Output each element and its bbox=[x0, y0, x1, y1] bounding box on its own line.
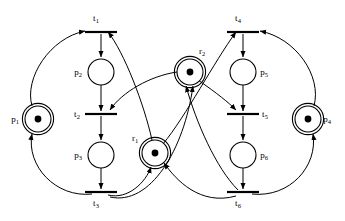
place-label-p2: p2 bbox=[74, 67, 82, 78]
place-p3[interactable]: p3 bbox=[74, 142, 114, 168]
transitions-layer: t1t2t3t4t5t6 bbox=[74, 13, 268, 209]
arc-t6-r1 bbox=[164, 163, 236, 198]
place-label-p5: p5 bbox=[260, 67, 268, 78]
transition-label-t5: t5 bbox=[262, 109, 268, 120]
place-circle-p5 bbox=[230, 59, 256, 85]
place-label-p1: p1 bbox=[11, 114, 19, 125]
arc-p4-t4 bbox=[260, 31, 315, 106]
place-p1[interactable]: p1 bbox=[11, 103, 53, 134]
place-p4[interactable]: p4 bbox=[292, 103, 331, 134]
petri-net-svg: p1p2p3p4p5p6r1r2 t1t2t3t4t5t6 bbox=[0, 0, 345, 221]
place-circle-p6 bbox=[230, 142, 256, 168]
transition-t2[interactable]: t2 bbox=[74, 109, 117, 120]
token-p1 bbox=[35, 116, 42, 123]
arc-r2-t5 bbox=[198, 80, 236, 110]
place-label-p3: p3 bbox=[74, 150, 82, 161]
place-p6[interactable]: p6 bbox=[230, 142, 269, 168]
transition-label-t6: t6 bbox=[235, 198, 242, 209]
place-p5[interactable]: p5 bbox=[230, 59, 268, 85]
token-p4 bbox=[305, 116, 312, 123]
place-label-p6: p6 bbox=[260, 150, 269, 161]
place-r2[interactable]: r2 bbox=[174, 46, 205, 88]
place-label-r1: r1 bbox=[132, 133, 138, 144]
arc-r2-t2 bbox=[110, 72, 177, 110]
places-layer: p1p2p3p4p5p6r1r2 bbox=[11, 46, 332, 169]
arc-r1-t1 bbox=[108, 32, 152, 140]
transition-t4[interactable]: t4 bbox=[227, 13, 259, 32]
place-p2[interactable]: p2 bbox=[74, 59, 114, 85]
transition-label-t2: t2 bbox=[74, 109, 80, 120]
transition-t1[interactable]: t1 bbox=[85, 13, 117, 32]
place-label-p4: p4 bbox=[323, 114, 332, 125]
arc-t3-p1 bbox=[31, 134, 92, 194]
transition-label-t3: t3 bbox=[93, 198, 99, 209]
place-circle-p3 bbox=[88, 142, 114, 168]
arc-t6-r2 bbox=[186, 86, 238, 190]
transition-label-t1: t1 bbox=[93, 13, 99, 24]
place-label-r2: r2 bbox=[199, 46, 205, 57]
arc-t6-p4 bbox=[252, 134, 314, 194]
transition-label-t4: t4 bbox=[235, 13, 242, 24]
place-circle-p2 bbox=[88, 59, 114, 85]
petri-net-canvas: p1p2p3p4p5p6r1r2 t1t2t3t4t5t6 bbox=[0, 0, 345, 221]
token-r1 bbox=[152, 150, 159, 157]
token-r2 bbox=[187, 69, 194, 76]
transition-t5[interactable]: t5 bbox=[227, 109, 268, 120]
